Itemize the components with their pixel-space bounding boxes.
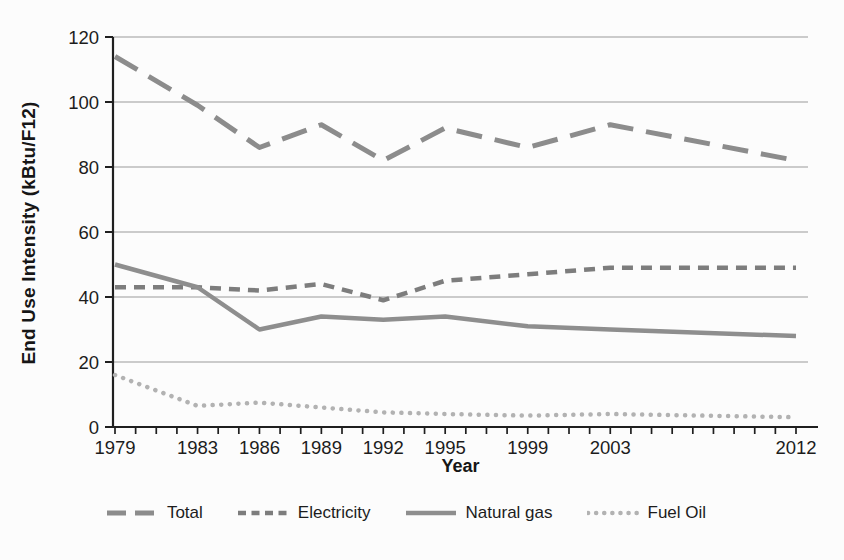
x-tick-label-2003: 2003 [590,437,631,458]
chart-legend: Total Electricity Natural gas Fuel Oil [0,503,812,523]
x-axis-title: Year [113,456,808,477]
y-tick-label-120: 120 [68,27,99,48]
x-tick-label-1995: 1995 [425,437,466,458]
line-chart: 0204060801001201979198319861989199219951… [0,0,844,498]
y-tick-label-100: 100 [68,92,99,113]
series-line-natural-gas [115,265,796,337]
legend-item-natural-gas: Natural gas [405,503,553,523]
legend-label-natural-gas: Natural gas [466,503,553,523]
legend-item-fuel-oil: Fuel Oil [587,503,707,523]
y-tick-label-60: 60 [78,222,99,243]
x-tick-label-1979: 1979 [94,437,135,458]
x-tick-label-1986: 1986 [239,437,280,458]
legend-label-electricity: Electricity [298,503,371,523]
x-tick-label-2012: 2012 [775,437,816,458]
chart-figure: 0204060801001201979198319861989199219951… [0,0,844,560]
y-axis-title: End Use Intensity (kBtu/F12) [18,23,42,443]
x-tick-label-1989: 1989 [301,437,342,458]
natural-gas-line-swatch [405,508,457,518]
series-line-electricity [115,268,796,301]
series-line-total [115,57,796,161]
series-line-fuel-oil [115,375,796,417]
y-tick-label-20: 20 [78,352,99,373]
x-tick-label-1992: 1992 [363,437,404,458]
y-tick-label-0: 0 [89,417,99,438]
legend-item-total: Total [106,503,203,523]
legend-item-electricity: Electricity [237,503,371,523]
electricity-line-swatch [237,508,289,518]
y-tick-label-80: 80 [78,157,99,178]
y-tick-label-40: 40 [78,287,99,308]
x-tick-label-1983: 1983 [177,437,218,458]
legend-label-total: Total [167,503,203,523]
total-line-swatch [106,508,158,518]
legend-label-fuel-oil: Fuel Oil [648,503,707,523]
fuel-oil-line-swatch [587,508,639,518]
x-tick-label-1999: 1999 [507,437,548,458]
